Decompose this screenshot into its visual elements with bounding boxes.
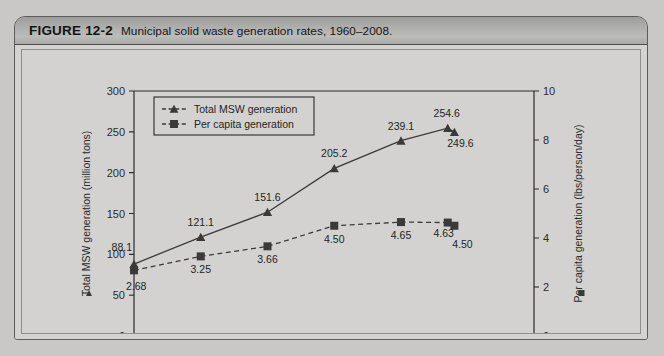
right-axis-tick-label: 4	[543, 232, 549, 244]
total-msw-data-label: 151.6	[254, 191, 280, 203]
total-msw-marker	[196, 233, 205, 241]
left-axis-tick-label: 50	[113, 289, 125, 301]
per-capita-data-label: 4.50	[452, 238, 473, 250]
total-msw-data-label: 249.6	[447, 137, 473, 149]
right-axis-tick-label: 8	[543, 134, 549, 146]
figure-card: FIGURE 12-2 Municipal solid waste genera…	[14, 16, 648, 340]
per-capita-data-label: 2.68	[126, 280, 147, 292]
right-axis-tick-label: 10	[543, 85, 555, 97]
figure-caption: Municipal solid waste generation rates, …	[121, 24, 392, 38]
figure-body: 0501001502002503000246810196019701980199…	[15, 45, 647, 339]
per-capita-marker	[397, 218, 405, 226]
left-axis-tick-label: 200	[107, 167, 125, 179]
left-axis-tick-label: 300	[107, 85, 125, 97]
per-capita-data-label: 4.63	[434, 227, 455, 239]
right-axis-tick-label: 6	[543, 183, 549, 195]
right-axis-tick-label: 2	[543, 281, 549, 293]
total-msw-marker	[443, 124, 452, 132]
left-axis-title: Total MSW generation (million tons)	[80, 131, 92, 297]
per-capita-data-label: 4.65	[391, 229, 412, 241]
left-axis-tick-label: 0	[119, 330, 125, 333]
right-axis-tick-label: 0	[543, 330, 549, 333]
figure-number: FIGURE 12-2	[29, 23, 113, 38]
total-msw-data-label: 205.2	[321, 147, 347, 159]
left-axis-tick-label: 250	[107, 126, 125, 138]
left-axis-tick-label: 150	[107, 208, 125, 220]
total-msw-data-label: 239.1	[388, 120, 414, 132]
legend-square-icon	[170, 120, 178, 128]
total-msw-data-label: 254.6	[434, 107, 460, 119]
right-axis-title-square-icon	[579, 290, 585, 296]
total-msw-marker	[330, 164, 339, 172]
per-capita-marker	[197, 252, 205, 260]
legend-label-per-capita: Per capita generation	[194, 118, 294, 130]
per-capita-marker	[264, 242, 272, 250]
per-capita-marker	[130, 266, 138, 274]
per-capita-data-label: 3.66	[257, 253, 278, 265]
chart-panel: 0501001502002503000246810196019701980199…	[21, 49, 641, 334]
total-msw-data-label: 88.1	[112, 241, 133, 253]
right-axis-title: Per capita generation (lbs/person/day)	[572, 124, 584, 302]
total-msw-marker	[263, 208, 272, 216]
per-capita-data-label: 4.50	[324, 233, 345, 245]
figure-header: FIGURE 12-2 Municipal solid waste genera…	[15, 17, 647, 45]
figure-root: FIGURE 12-2 Municipal solid waste genera…	[0, 0, 664, 356]
total-msw-line	[134, 128, 454, 264]
legend-label-total: Total MSW generation	[194, 103, 297, 115]
per-capita-data-label: 3.25	[191, 263, 212, 275]
per-capita-marker	[330, 222, 338, 230]
msw-generation-line-chart: 0501001502002503000246810196019701980199…	[22, 50, 642, 333]
total-msw-data-label: 121.1	[188, 216, 214, 228]
